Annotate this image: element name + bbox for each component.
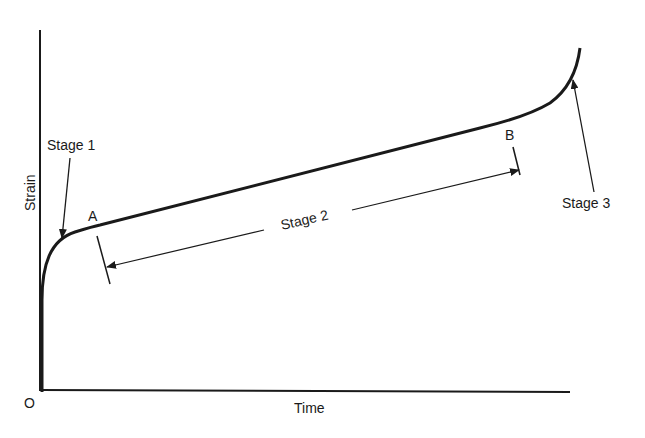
origin-label: O: [24, 395, 35, 411]
x-axis: [39, 390, 570, 392]
y-axis-label: Strain: [22, 174, 38, 211]
stage1-label: Stage 1: [47, 137, 95, 153]
point-a-tick: [97, 236, 110, 284]
stage2-arrow-left: [107, 230, 264, 267]
stage3-arrow: [573, 80, 594, 192]
stage2-label: Stage 2: [279, 206, 330, 232]
creep-curve-diagram: Strain Time O Stage 1 Stage 2 Stage 3 A …: [0, 0, 645, 438]
x-axis-label: Time: [294, 400, 325, 416]
stage3-label: Stage 3: [562, 195, 610, 211]
stage2-arrow-right: [352, 170, 519, 210]
stage1-arrow: [62, 158, 70, 238]
point-a-label: A: [88, 208, 98, 224]
point-b-label: B: [505, 127, 514, 143]
